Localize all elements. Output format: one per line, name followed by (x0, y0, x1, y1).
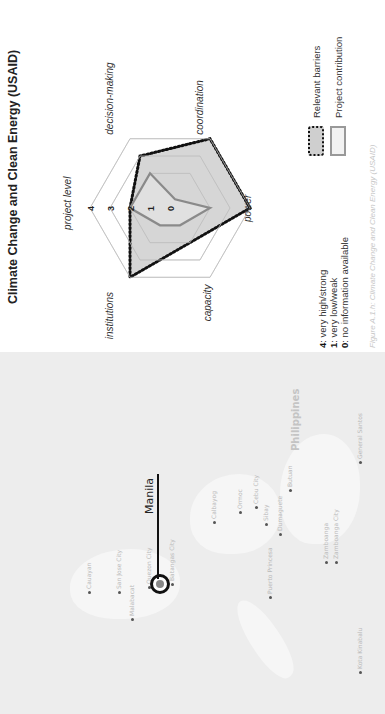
city-dot-icon (213, 521, 216, 524)
city-dot-icon (239, 511, 242, 514)
tick-label: 1 (146, 206, 156, 211)
country-label: Philippines (290, 389, 301, 451)
city-label: Kota Kinabalu (356, 628, 363, 674)
city-dot-icon (255, 506, 258, 509)
manila-leader-line (157, 474, 159, 579)
city-dot-icon (88, 591, 91, 594)
city-dot-icon (359, 671, 362, 674)
city-label: Calbayog (210, 491, 217, 524)
scale-key-1: 1: very low/weak (328, 237, 339, 348)
map-panel: CauayanSan Jose CityMalabacatQuezon City… (0, 352, 385, 714)
city-label: Cauayan (85, 563, 92, 594)
city-dot-icon (171, 583, 174, 586)
city-label: Cebu City (252, 475, 259, 509)
city-dot-icon (289, 489, 292, 492)
city-dot-icon (269, 596, 272, 599)
city-label: Butuan (286, 465, 293, 492)
axis-label: project level (62, 177, 73, 230)
scale-key-4: 4: very high/strong (317, 237, 328, 348)
legend-barriers: Relevant barriers (308, 46, 324, 156)
city-dot-icon (335, 561, 338, 564)
axis-label: power (242, 195, 253, 222)
figure-caption: Figure A.1.h: Climate Change and Clean E… (368, 145, 377, 348)
city-dot-icon (131, 618, 134, 621)
city-dot-icon (325, 561, 328, 564)
city-label: Dumaguete (276, 496, 283, 536)
tick-label: 4 (86, 206, 96, 211)
tick-label: 2 (126, 206, 136, 211)
city-dot-icon (359, 461, 362, 464)
barriers-swatch-icon (308, 126, 324, 156)
axis-label: institutions (104, 292, 115, 339)
rotated-figure: CauayanSan Jose CityMalabacatQuezon City… (0, 0, 385, 714)
city-label: Ormoc (236, 489, 243, 514)
scale-key: 4: very high/strong 1: very low/weak 0: … (317, 237, 350, 348)
manila-target-icon[interactable] (150, 574, 170, 594)
axis-label: capacity (202, 285, 213, 322)
scale-key-0: 0: no information available (339, 237, 350, 348)
tick-label: 0 (166, 206, 176, 211)
city-label: San Jose City (115, 550, 122, 594)
city-label: Zamboanga (322, 523, 329, 564)
tick-label: 3 (106, 206, 116, 211)
radar-chart-panel: Climate Change and Clean Energy (USAID) … (0, 0, 385, 352)
city-label: Zamboanga City (332, 509, 339, 564)
land-palawan (227, 594, 303, 685)
city-label: Puerto Princesa (266, 547, 273, 599)
axis-label: coordination (194, 80, 205, 134)
city-dot-icon (265, 523, 268, 526)
axis-label: decision-making (104, 62, 115, 134)
city-dot-icon (118, 591, 121, 594)
manila-label: Manila (143, 478, 156, 514)
city-dot-icon (279, 533, 282, 536)
contribution-swatch-icon (330, 126, 346, 156)
city-label: General Santos (356, 413, 363, 464)
legend-contribution: Project contribution (330, 37, 346, 156)
city-label: Sibay (262, 504, 269, 526)
city-label: Malabacat (128, 585, 135, 621)
